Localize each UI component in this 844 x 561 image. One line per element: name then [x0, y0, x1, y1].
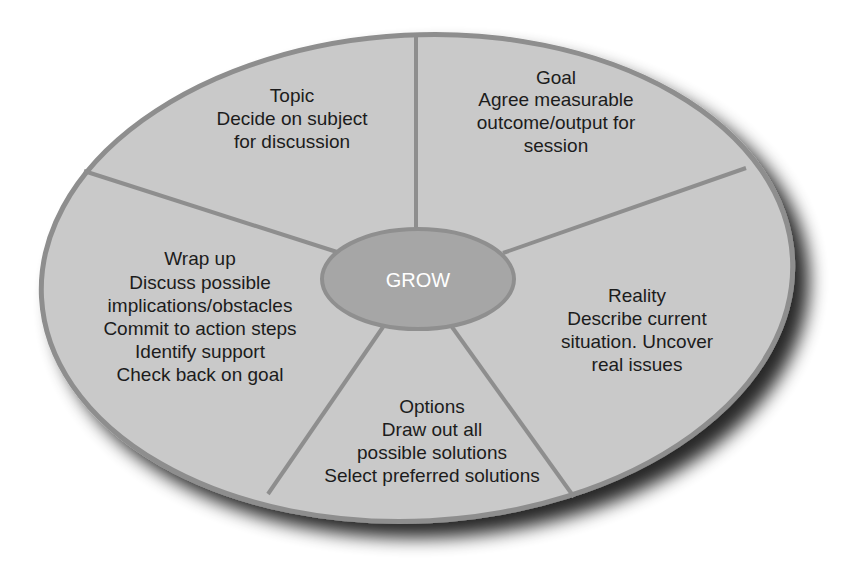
- segment-line: Agree measurable: [478, 89, 633, 110]
- segment-line: Identify support: [135, 341, 266, 362]
- grow-model-diagram: GROW Topic Decide on subject for discuss…: [0, 0, 844, 561]
- center-hub: GROW: [322, 229, 514, 329]
- center-label: GROW: [386, 269, 451, 291]
- segment-line: Decide on subject: [216, 108, 368, 129]
- segment-title: Options: [399, 396, 464, 417]
- segment-line: Check back on goal: [117, 364, 284, 385]
- segment-line: Select preferred solutions: [324, 465, 539, 486]
- segment-line: Discuss possible: [129, 272, 271, 293]
- segment-title: Goal: [536, 67, 576, 88]
- segment-title: Reality: [608, 285, 667, 306]
- segment-line: Draw out all: [382, 419, 482, 440]
- segment-line: real issues: [592, 354, 683, 375]
- segment-line: implications/obstacles: [108, 295, 293, 316]
- segment-line: outcome/output for: [477, 112, 636, 133]
- segment-line: session: [524, 135, 588, 156]
- segment-line: possible solutions: [357, 442, 507, 463]
- segment-title: Wrap up: [164, 248, 235, 269]
- segment-line: situation. Uncover: [561, 331, 714, 352]
- segment-line: for discussion: [234, 131, 350, 152]
- segment-line: Commit to action steps: [103, 318, 296, 339]
- segment-title: Topic: [270, 85, 314, 106]
- segment-line: Describe current: [567, 308, 707, 329]
